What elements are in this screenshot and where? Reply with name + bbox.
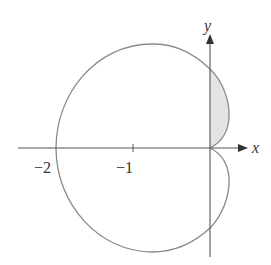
y-axis-arrow-icon [206,34,214,44]
y-axis-label: y [202,17,212,35]
x-axis-arrow-icon [238,144,248,152]
x-axis-label: x [251,139,259,156]
lower-lobe [210,148,229,228]
tick-label-minus-1: −1 [116,159,133,176]
tick-label-minus-2: −2 [34,159,51,176]
polar-curve-figure: −2 −1 x y [0,0,271,265]
